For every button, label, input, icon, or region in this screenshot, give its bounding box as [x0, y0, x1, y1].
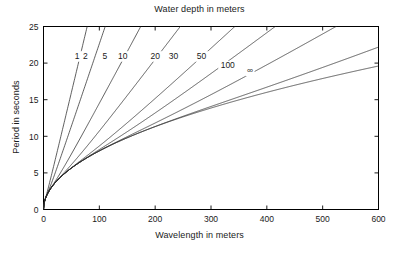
y-tick-label: 25	[29, 22, 39, 32]
curve-label-1: 1	[75, 51, 80, 61]
y-tick-label: 0	[34, 205, 39, 215]
curve-depth-20	[44, 0, 283, 209]
x-tick-label: 200	[148, 214, 162, 224]
curve-label-100: 100	[221, 60, 235, 70]
curve-label-30: 30	[169, 51, 179, 61]
x-axis-label: Wavelength in meters	[0, 230, 399, 240]
curve-depth-50	[44, 2, 379, 209]
y-tick-label: 10	[29, 132, 39, 142]
x-tick-label: 600	[371, 214, 385, 224]
chart-figure: Water depth in meters Period in seconds …	[0, 0, 399, 253]
curve-depth-100	[44, 47, 379, 209]
curve-depth-10	[44, 0, 214, 209]
curve-label-10: 10	[118, 51, 128, 61]
curve-label-infinity: ∞	[247, 65, 253, 75]
y-tick-label: 15	[29, 95, 39, 105]
curve-label-2: 2	[83, 51, 88, 61]
x-tick-label: 0	[41, 214, 46, 224]
plot-area: 01002003004005006000510152025 1251020305…	[0, 0, 399, 253]
curve-label-50: 50	[197, 51, 207, 61]
y-tick-label: 20	[29, 58, 39, 68]
x-tick-label: 100	[92, 214, 106, 224]
x-tick-label: 500	[316, 214, 330, 224]
data-curves	[44, 0, 379, 210]
curve-depth-1	[44, 0, 98, 210]
curve-depth-30	[44, 0, 334, 209]
curve-label-5: 5	[103, 51, 108, 61]
y-tick-label: 5	[34, 168, 39, 178]
tick-marks	[44, 27, 379, 210]
curve-label-20: 20	[150, 51, 160, 61]
curve-depth-2	[44, 0, 120, 210]
axes-frame	[44, 27, 379, 210]
x-tick-label: 300	[204, 214, 218, 224]
curve-labels: 12510203050100∞	[73, 51, 255, 77]
x-tick-label: 400	[260, 214, 274, 224]
